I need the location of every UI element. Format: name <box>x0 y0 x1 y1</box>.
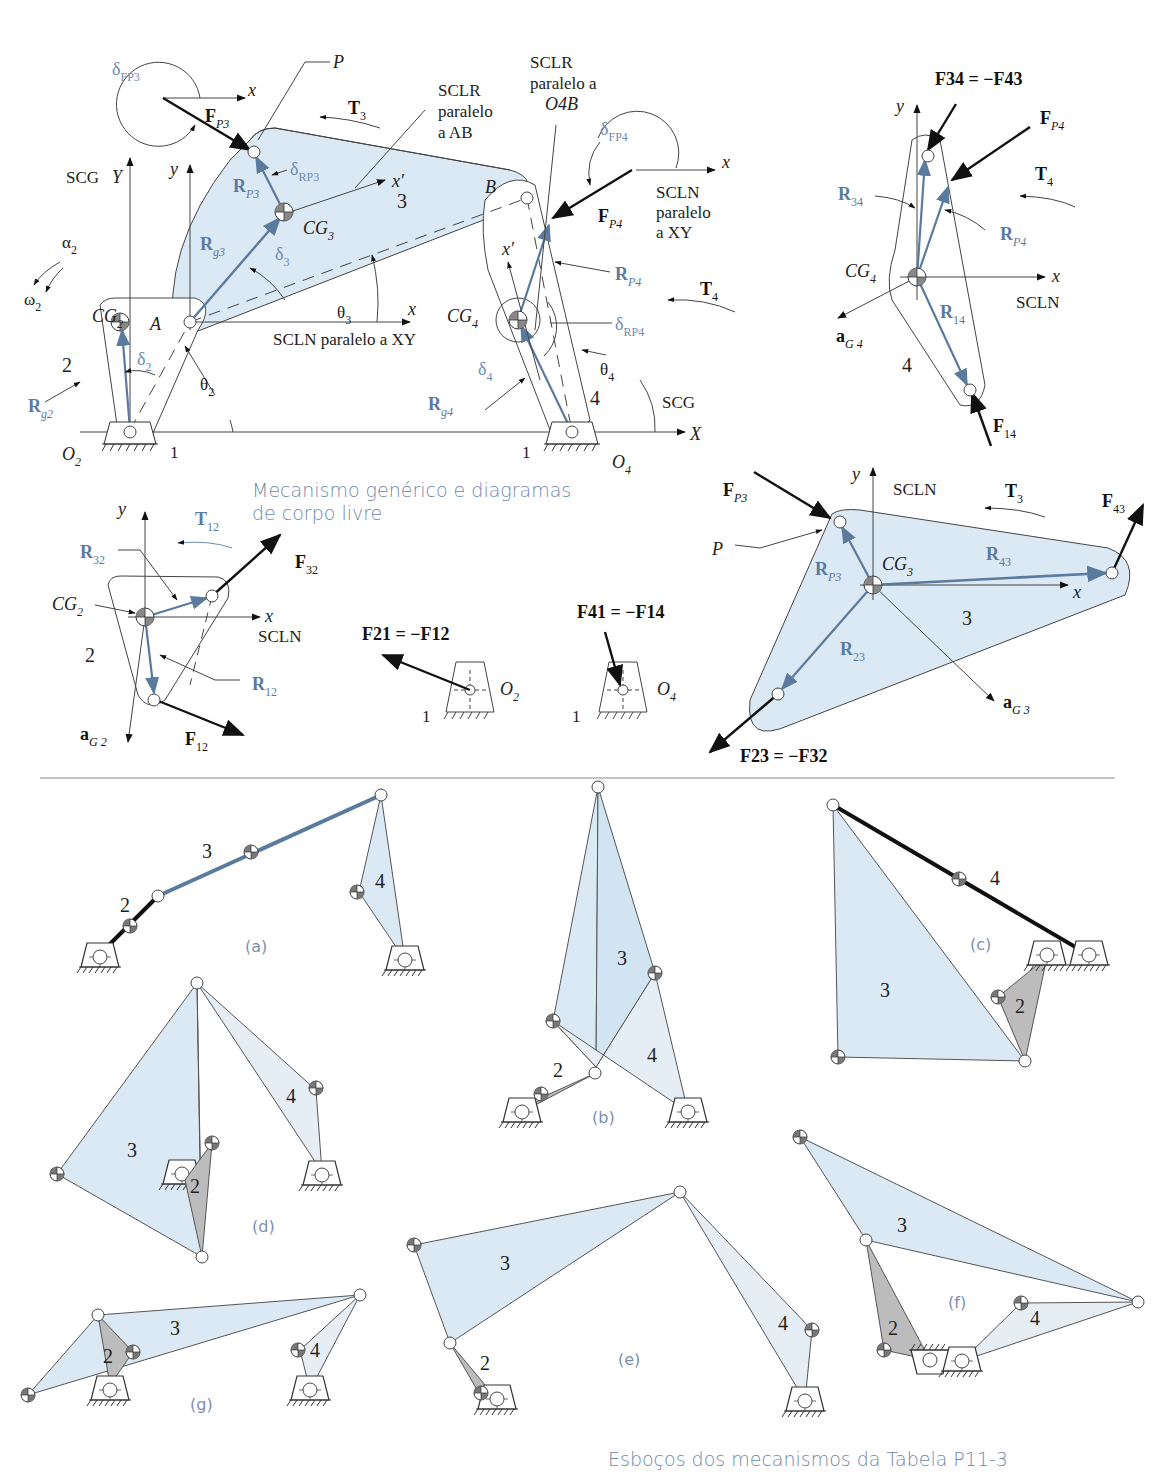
scg-right-label: SCG <box>662 393 695 412</box>
fp3-label: FP3 <box>205 106 229 131</box>
sketch-d: 3 2 4 (d) <box>50 977 343 1263</box>
rg4-label: Rg4 <box>428 394 453 419</box>
f21-equation: F21 = −F12 <box>362 624 450 644</box>
sketch-a-link-3: 3 <box>202 840 212 862</box>
x-prime-4-label: x′ <box>501 239 515 259</box>
x-axis-right-label: x <box>721 152 730 172</box>
link-4-number: 4 <box>902 354 912 376</box>
point-p-label: P <box>711 539 723 559</box>
point-p-label: P <box>332 52 344 72</box>
cg2-label: CG2 <box>52 594 83 619</box>
sketch-g-link-4: 4 <box>310 1339 320 1361</box>
sketch-f-link-2: 2 <box>888 1317 898 1339</box>
link-2-number: 2 <box>85 644 95 666</box>
sketch-e-link-2: 2 <box>480 1352 490 1374</box>
r32-label: R32 <box>80 542 105 567</box>
link-2-number: 2 <box>62 354 72 376</box>
sketch-b: 2 3 4 (b) <box>499 781 709 1128</box>
caption-top-line1: Mecanismo genérico e diagramas <box>252 479 571 501</box>
sketch-c-link-3: 3 <box>880 979 890 1001</box>
fp3-label: FP3 <box>723 480 747 505</box>
sketch-g-tag: (g) <box>190 1395 213 1414</box>
f12-label: F12 <box>185 729 208 754</box>
x-axis-label: x <box>247 80 256 100</box>
caption-top-line2: de corpo livre <box>252 502 382 524</box>
scg-label: SCG <box>66 168 99 187</box>
fbd-link-3: FP3 y SCLN T3 F43 P RP3 CG3 R43 x 3 R23 … <box>710 464 1143 766</box>
sketch-a-link-4: 4 <box>375 870 385 892</box>
r12-label: R12 <box>252 674 277 699</box>
caption-bottom: Esboços dos mecanismos da Tabela P11-3 <box>608 1448 1008 1470</box>
fbd-link-2: y T12 R32 F32 CG2 x SCLN 2 R12 aG 2 F12 <box>52 499 318 754</box>
delta-fp3-label: δFP3 <box>112 59 140 84</box>
scln-label: SCLN <box>1016 293 1059 312</box>
x-axis-mid-label: x <box>407 299 416 319</box>
ag4-label: aG 4 <box>836 326 863 351</box>
sketch-c-link-2: 2 <box>1015 995 1025 1017</box>
y-axis-local-label: y <box>168 159 178 179</box>
theta3-label: θ3 <box>337 303 351 327</box>
fp4-label: FP4 <box>598 206 622 231</box>
f34-equation: F34 = −F43 <box>935 69 1023 89</box>
f23-equation: F23 = −F32 <box>740 746 828 766</box>
delta-fp4-label: δFP4 <box>600 119 628 144</box>
ground-1b-label: 1 <box>572 707 581 726</box>
theta2-label: θ2 <box>200 375 214 399</box>
t4-label: T4 <box>1035 164 1053 189</box>
x-axis-label: x <box>1072 582 1081 602</box>
link-4-number: 4 <box>590 387 600 409</box>
ground-1-left-label: 1 <box>170 443 179 462</box>
scln-xy-label-2: paralelo <box>656 203 711 222</box>
sketch-c-tag: (c) <box>970 935 991 954</box>
t4-label: T4 <box>700 279 718 304</box>
sclr-o4b-label-2: paralelo a <box>530 74 597 93</box>
generic-mechanism: δFP3 x FP3 P T3 SCLR paralelo a AB SCLR … <box>24 52 735 477</box>
sketch-a-tag: (a) <box>245 937 267 956</box>
sketch-f-link-4: 4 <box>1030 1307 1040 1329</box>
ground-1-right-label: 1 <box>522 443 531 462</box>
sclr-ab-label: SCLR <box>438 81 481 100</box>
sketch-g: 2 3 4 (g) <box>21 1289 366 1414</box>
o4-label: O4 <box>612 452 631 477</box>
sketch-c: 4 3 2 (c) <box>827 799 1110 1067</box>
f32-label: F32 <box>295 552 318 577</box>
sclr-ab-label-2: paralelo <box>438 102 493 121</box>
f41-equation: F41 = −F14 <box>577 602 665 622</box>
sketch-b-link-4: 4 <box>647 1044 657 1066</box>
sketch-e-link-3: 3 <box>500 1252 510 1274</box>
omega2-label: ω2 <box>24 290 41 314</box>
sketch-e-link-4: 4 <box>778 1312 788 1334</box>
scln-label: SCLN <box>258 627 301 646</box>
delta-rp4-label: δRP4 <box>615 314 644 339</box>
sketch-d-tag: (d) <box>252 1217 275 1236</box>
fbd-ground: F21 = −F12 O2 1 F41 = −F14 O4 1 <box>362 602 676 726</box>
scln-xy-label-3: a XY <box>656 223 692 242</box>
cg4-label: CG4 <box>447 306 478 331</box>
sketch-d-link-2: 2 <box>190 1175 200 1197</box>
x-axis-label: x <box>1051 266 1060 286</box>
delta4-label: δ4 <box>478 359 492 384</box>
sketch-g-link-3: 3 <box>170 1317 180 1339</box>
o4-ground-label: O4 <box>657 679 676 704</box>
point-b-label: B <box>485 177 496 197</box>
t3-label: T3 <box>1005 481 1023 506</box>
scln-label: SCLN <box>893 480 936 499</box>
f14-label: F14 <box>993 416 1016 441</box>
x-prime-3-label: x′ <box>391 171 405 191</box>
y-axis-label: y <box>894 96 904 116</box>
link-3-number: 3 <box>397 190 407 212</box>
sketch-a: 2 3 4 (a) <box>77 789 426 976</box>
sketch-g-link-2: 2 <box>103 1345 113 1367</box>
mechanism-figure: δFP3 x FP3 P T3 SCLR paralelo a AB SCLR … <box>0 0 1172 1478</box>
r34-label: R34 <box>838 184 863 209</box>
ag2-label: aG 2 <box>80 724 107 749</box>
point-a-label: A <box>149 314 162 334</box>
sketch-d-link-3: 3 <box>127 1139 137 1161</box>
sclr-o4b-label-3: O4B <box>545 94 578 114</box>
ag3-label: aG 3 <box>1003 692 1030 717</box>
ground-1-label: 1 <box>422 707 431 726</box>
o2-ground-label: O2 <box>500 679 519 704</box>
rp4-label: RP4 <box>1000 224 1026 249</box>
scln-xy-label: SCLN <box>656 183 699 202</box>
x-axis-global-label: X <box>689 424 702 444</box>
